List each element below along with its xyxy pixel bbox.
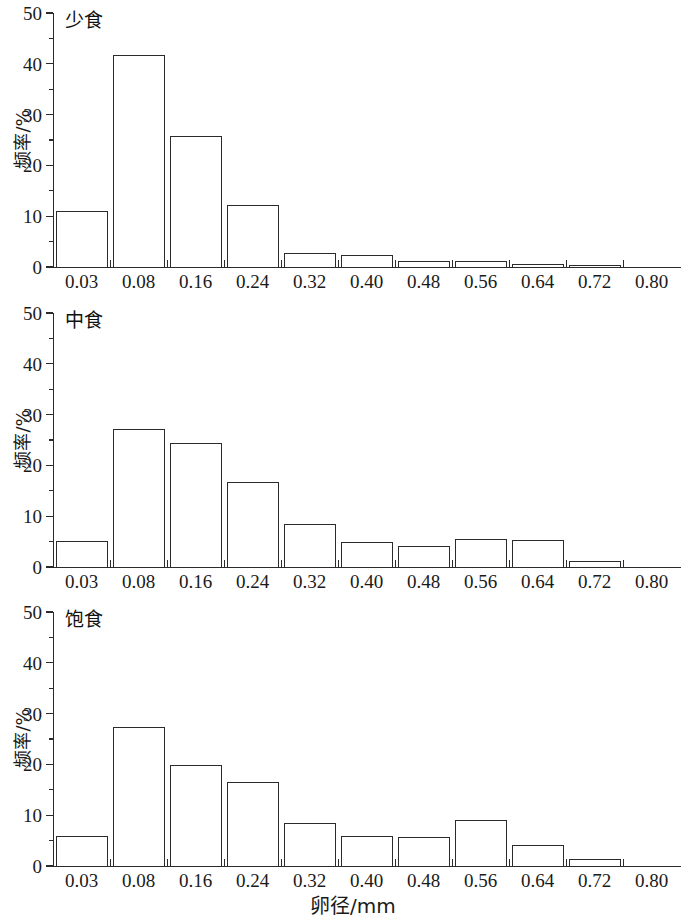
y-tick-major [46,216,53,217]
x-tick-label: 0.40 [350,572,383,591]
y-axis-line-panel-3 [53,612,54,866]
y-tick-minor [49,840,54,841]
y-tick-minor [49,789,54,790]
y-tick-major [46,12,53,13]
x-tick [395,859,396,866]
y-tick-major [46,611,53,612]
x-axis-line-panel-1 [53,267,681,268]
histogram-bar [398,546,450,567]
y-tick-minor [49,637,54,638]
x-tick [281,859,282,866]
panel-baoshi: 频率/% 饱食 01020304050 0.030.080.160.240.32… [0,599,689,891]
y-axis-line-panel-1 [53,13,54,267]
y-tick-major [46,516,53,517]
x-tick-label: 0.48 [407,272,440,291]
histogram-bar [341,542,393,567]
histogram-bar [512,845,564,866]
x-axis-label: 卵径/mm [310,896,396,916]
y-tick-label: 10 [23,806,42,825]
histogram-bar [455,261,507,267]
y-tick-minor [49,688,54,689]
y-tick-label: 30 [23,704,42,723]
x-tick [509,260,510,267]
x-tick-label: 0.03 [65,272,98,291]
y-tick-major [46,312,53,313]
y-tick-major [46,662,53,663]
x-tick [110,859,111,866]
y-tick-major [46,414,53,415]
y-tick-major [46,865,53,866]
y-tick-label: 40 [23,54,42,73]
x-tick-label: 0.72 [578,871,611,890]
histogram-bar [341,836,393,866]
y-tick-label: 40 [23,653,42,672]
histogram-bar [113,727,165,866]
histogram-bar [284,253,336,267]
x-tick-label: 0.56 [464,572,497,591]
y-tick-minor [49,389,54,390]
x-tick-label: 0.56 [464,272,497,291]
y-tick-major [46,266,53,267]
histogram-bar [56,836,108,866]
x-tick-label: 0.08 [122,871,155,890]
y-tick-label: 0 [33,258,43,277]
y-tick-label: 0 [33,857,43,876]
x-tick [167,560,168,567]
x-tick [452,560,453,567]
y-tick-minor [49,89,54,90]
y-tick-major [46,363,53,364]
x-tick-label: 0.16 [179,572,212,591]
y-axis-line-panel-2 [53,313,54,567]
histogram-bar [284,823,336,866]
y-tick-major [46,63,53,64]
histogram-bar [170,765,222,866]
y-tick-major [46,114,53,115]
x-tick-label: 0.24 [236,272,269,291]
y-tick-label: 10 [23,207,42,226]
histogram-bar [569,561,621,567]
y-tick-major [46,815,53,816]
x-tick [623,260,624,267]
x-tick [110,560,111,567]
y-tick-label: 0 [33,558,43,577]
x-tick [224,260,225,267]
x-tick-label: 0.32 [293,871,326,890]
histogram-bar [569,265,621,267]
x-tick-label: 0.03 [65,572,98,591]
x-tick-label: 0.32 [293,272,326,291]
x-tick [281,560,282,567]
x-tick-label: 0.48 [407,572,440,591]
x-tick-label: 0.64 [521,272,554,291]
panel-title-panel-3: 饱食 [65,610,103,629]
histogram-bar [113,55,165,267]
x-tick-label: 0.24 [236,871,269,890]
panel-zhongshi: 频率/% 中食 01020304050 0.030.080.160.240.32… [0,300,689,592]
histogram-bar [455,820,507,866]
histogram-bar [56,211,108,267]
x-tick-label: 0.16 [179,871,212,890]
y-tick-minor [49,241,54,242]
histogram-bar [170,443,222,567]
histogram-bar [56,541,108,567]
x-tick [566,560,567,567]
x-tick-label: 0.56 [464,871,497,890]
y-tick-major [46,713,53,714]
y-tick-minor [49,490,54,491]
y-tick-label: 30 [23,405,42,424]
y-tick-major [46,764,53,765]
histogram-bar [341,255,393,267]
y-tick-label: 50 [23,603,42,622]
x-tick [509,859,510,866]
y-tick-label: 10 [23,507,42,526]
x-tick-label: 0.48 [407,871,440,890]
histogram-bar [398,837,450,866]
x-tick-label: 0.03 [65,871,98,890]
panel-title-panel-2: 中食 [65,311,103,330]
x-tick [509,560,510,567]
y-tick-label: 20 [23,456,42,475]
x-axis-line-panel-2 [53,567,681,568]
y-tick-minor [49,738,54,739]
y-tick-minor [49,541,54,542]
y-tick-label: 20 [23,755,42,774]
x-tick [53,859,54,866]
